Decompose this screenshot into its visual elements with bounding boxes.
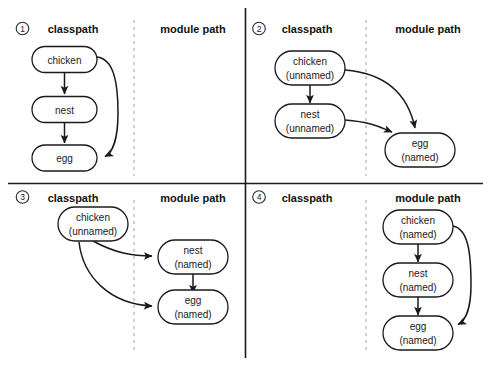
q4-node-nest-sublabel: (named) bbox=[399, 282, 436, 293]
q3-node-egg-label: egg bbox=[185, 295, 202, 306]
quadrant-number-3: 3 bbox=[16, 191, 29, 204]
q1-classpath-header: classpath bbox=[48, 23, 99, 35]
q1-module-path-header: module path bbox=[160, 23, 226, 35]
q2-edge-nest-egg bbox=[345, 120, 392, 132]
q3-node-chicken-label: chicken bbox=[76, 212, 110, 223]
q3-node-nest-label: nest bbox=[184, 245, 203, 256]
q2-edge-chicken-egg bbox=[345, 70, 415, 128]
q1-node-nest-label: nest bbox=[55, 105, 74, 116]
q4-node-nest: nest (named) bbox=[383, 263, 453, 297]
q1-node-egg: egg bbox=[32, 145, 97, 171]
q2-node-egg: egg (named) bbox=[385, 133, 455, 167]
quadrant-number-2-text: 2 bbox=[257, 24, 262, 34]
q4-node-egg-sublabel: (named) bbox=[399, 335, 436, 346]
q2-node-egg-label: egg bbox=[412, 138, 429, 149]
q3-node-nest: nest (named) bbox=[158, 240, 228, 274]
q2-node-chicken: chicken (unnamed) bbox=[275, 51, 345, 85]
q3-node-nest-sublabel: (named) bbox=[174, 259, 211, 270]
q4-node-egg-label: egg bbox=[410, 321, 427, 332]
q4-node-chicken-sublabel: (named) bbox=[399, 229, 436, 240]
q3-classpath-header: classpath bbox=[48, 192, 99, 204]
quadrant-4: 4 classpath module path chicken (named) … bbox=[253, 191, 471, 350]
q4-node-nest-label: nest bbox=[409, 268, 428, 279]
q3-node-egg: egg (named) bbox=[158, 290, 228, 324]
q4-node-egg: egg (named) bbox=[383, 316, 453, 350]
q1-node-nest: nest bbox=[32, 97, 97, 123]
q2-node-nest-sublabel: (unnamed) bbox=[286, 123, 334, 134]
q2-classpath-header: classpath bbox=[282, 23, 333, 35]
q3-module-path-header: module path bbox=[160, 192, 226, 204]
migration-diagram: 1 classpath module path chicken nest egg bbox=[0, 0, 491, 366]
quadrant-number-4-text: 4 bbox=[257, 192, 262, 202]
q3-edge-chicken-nest bbox=[93, 241, 152, 256]
q2-node-chicken-label: chicken bbox=[293, 56, 327, 67]
q4-classpath-header: classpath bbox=[282, 192, 333, 204]
quadrant-number-1: 1 bbox=[16, 22, 29, 35]
q2-node-nest: nest (unnamed) bbox=[275, 104, 345, 138]
quadrant-number-4: 4 bbox=[253, 191, 266, 204]
q2-node-chicken-sublabel: (unnamed) bbox=[286, 70, 334, 81]
quadrant-number-2: 2 bbox=[253, 22, 266, 35]
quadrant-number-1-text: 1 bbox=[20, 24, 25, 34]
q4-module-path-header: module path bbox=[395, 192, 461, 204]
q2-node-egg-sublabel: (named) bbox=[401, 152, 438, 163]
q1-node-egg-label: egg bbox=[56, 153, 73, 164]
q1-node-chicken: chicken bbox=[32, 47, 97, 73]
q3-node-chicken: chicken (unnamed) bbox=[58, 207, 128, 241]
quadrant-3: 3 classpath module path chicken (unnamed… bbox=[16, 191, 228, 350]
q2-node-nest-label: nest bbox=[301, 109, 320, 120]
q3-node-chicken-sublabel: (unnamed) bbox=[69, 226, 117, 237]
quadrant-1: 1 classpath module path chicken nest egg bbox=[16, 20, 226, 176]
quadrant-number-3-text: 3 bbox=[20, 192, 25, 202]
q4-edge-chicken-egg bbox=[453, 226, 471, 325]
q2-module-path-header: module path bbox=[395, 23, 461, 35]
q4-node-chicken: chicken (named) bbox=[383, 210, 453, 244]
q3-node-egg-sublabel: (named) bbox=[174, 309, 211, 320]
q1-edge-chicken-egg bbox=[97, 57, 118, 157]
quadrant-2: 2 classpath module path chicken (unnamed… bbox=[253, 20, 461, 176]
q1-node-chicken-label: chicken bbox=[48, 55, 82, 66]
q4-node-chicken-label: chicken bbox=[401, 215, 435, 226]
